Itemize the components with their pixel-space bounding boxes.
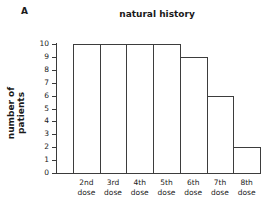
x-tick-label-ordinal: 3rd bbox=[100, 178, 127, 188]
x-tick-label-unit: dose bbox=[153, 188, 180, 198]
bar bbox=[207, 96, 235, 174]
x-tick-label-ordinal: 5th bbox=[153, 178, 180, 188]
figure-panel-a: A natural history number of patients 109… bbox=[0, 0, 275, 213]
y-axis-line bbox=[56, 43, 57, 174]
y-tick-mark bbox=[52, 57, 56, 58]
x-tick-label-ordinal: 8th bbox=[233, 178, 260, 188]
x-tick-label-unit: dose bbox=[73, 188, 100, 198]
x-tick-label: 2nddose bbox=[73, 178, 100, 197]
x-tick-label-ordinal: 6th bbox=[180, 178, 207, 188]
y-tick-mark bbox=[52, 70, 56, 71]
x-tick-label: 6thdose bbox=[180, 178, 207, 197]
y-tick-mark bbox=[52, 121, 56, 122]
y-tick-label: 6 bbox=[31, 92, 49, 100]
y-tick-mark bbox=[52, 134, 56, 135]
x-tick-label: 3rddose bbox=[100, 178, 127, 197]
bar-chart-plot-area: number of patients 109876543210 2nddose3… bbox=[0, 0, 275, 213]
y-tick-label: 1 bbox=[31, 156, 49, 164]
x-tick-label-unit: dose bbox=[126, 188, 153, 198]
y-tick-mark bbox=[52, 83, 56, 84]
y-tick-mark bbox=[52, 173, 56, 174]
y-tick-label: 4 bbox=[31, 117, 49, 125]
x-tick-label: 8thdose bbox=[233, 178, 260, 197]
y-axis-title: number of patients bbox=[6, 68, 26, 158]
y-tick-mark bbox=[52, 44, 56, 45]
y-tick-label: 3 bbox=[31, 130, 49, 138]
x-tick-label: 7thdose bbox=[207, 178, 234, 197]
y-tick-label: 2 bbox=[31, 143, 49, 151]
y-tick-mark bbox=[52, 160, 56, 161]
y-tick-label: 0 bbox=[31, 169, 49, 177]
y-tick-mark bbox=[52, 96, 56, 97]
bar bbox=[73, 44, 101, 174]
y-tick-label: 7 bbox=[31, 79, 49, 87]
x-tick-label: 5thdose bbox=[153, 178, 180, 197]
bar bbox=[100, 44, 128, 174]
y-tick-label: 9 bbox=[31, 53, 49, 61]
y-tick-label: 5 bbox=[31, 105, 49, 113]
x-tick-label-ordinal: 4th bbox=[126, 178, 153, 188]
x-tick-label: 4thdose bbox=[126, 178, 153, 197]
x-tick-label-unit: dose bbox=[180, 188, 207, 198]
x-tick-label-ordinal: 7th bbox=[207, 178, 234, 188]
bar bbox=[233, 147, 261, 174]
bar bbox=[153, 44, 181, 174]
y-tick-label: 10 bbox=[31, 40, 49, 48]
y-tick-mark bbox=[52, 147, 56, 148]
x-tick-label-ordinal: 2nd bbox=[73, 178, 100, 188]
x-tick-label-unit: dose bbox=[207, 188, 234, 198]
bar bbox=[180, 57, 208, 174]
x-tick-label-unit: dose bbox=[100, 188, 127, 198]
x-tick-label-unit: dose bbox=[233, 188, 260, 198]
bar bbox=[126, 44, 154, 174]
y-tick-mark bbox=[52, 109, 56, 110]
y-tick-label: 8 bbox=[31, 66, 49, 74]
